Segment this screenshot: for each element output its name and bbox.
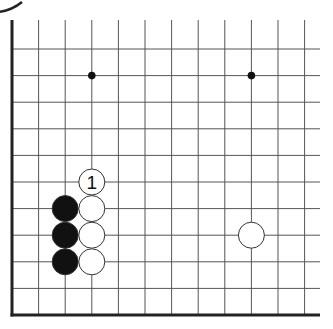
stones: 1 — [52, 169, 264, 275]
black-stone — [52, 222, 78, 248]
go-board-diagram: 1 — [0, 0, 333, 329]
black-stone — [52, 196, 78, 222]
black-stone — [52, 249, 78, 275]
white-stone — [238, 222, 264, 248]
move-number-label: 1 — [87, 172, 98, 193]
star-point-icon — [88, 72, 96, 80]
white-stone — [79, 196, 105, 222]
white-stone — [79, 249, 105, 275]
white-stone: 1 — [79, 169, 105, 195]
white-stone — [79, 222, 105, 248]
cropped-circle-arc — [0, 2, 22, 12]
star-point-icon — [248, 72, 256, 80]
